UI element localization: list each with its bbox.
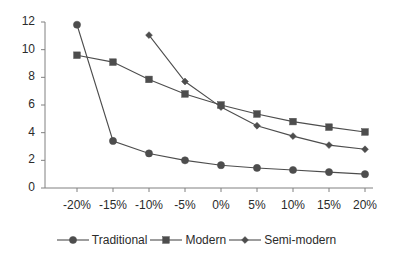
data-point-marker-circle (325, 168, 332, 175)
y-axis-tick-label: 2 (13, 152, 35, 166)
legend-label: Modern (183, 233, 228, 247)
legend-label: Traditional (90, 233, 150, 247)
series-semi-modern (146, 32, 369, 153)
legend-item-semi-modern[interactable]: Semi-modern (228, 233, 338, 247)
data-point-marker-square (326, 124, 333, 131)
x-axis-tick-label: -5% (165, 198, 205, 212)
data-point-marker-square (74, 52, 81, 59)
data-point-marker-diamond (326, 142, 333, 149)
data-point-marker-diamond (290, 133, 297, 140)
plot-area (0, 0, 394, 265)
data-point-marker-circle (289, 166, 296, 173)
series-line (77, 25, 365, 174)
chart-legend: TraditionalModernSemi-modern (0, 233, 394, 247)
data-point-marker-square (182, 91, 189, 98)
data-point-marker-circle (69, 236, 76, 243)
data-point-marker-circle (181, 157, 188, 164)
data-point-marker-square (110, 59, 117, 66)
x-axis-tick-label: 0% (201, 198, 241, 212)
data-point-marker-diamond (362, 146, 369, 153)
legend-item-modern[interactable]: Modern (149, 233, 228, 247)
data-point-marker-circle (73, 21, 80, 28)
y-axis-tick-label: 6 (13, 97, 35, 111)
data-point-marker-diamond (254, 122, 261, 129)
x-axis-tick-label: -20% (57, 198, 97, 212)
series-line (77, 55, 365, 132)
x-axis-tick-label: 15% (309, 198, 349, 212)
data-point-marker-circle (361, 171, 368, 178)
x-axis-tick-label: -10% (129, 198, 169, 212)
line-chart: 024681012 -20%-15%-10%-5%0%5%10%15%20% T… (0, 0, 394, 265)
x-axis-tick-label: 10% (273, 198, 313, 212)
legend-marker-diamond (228, 234, 262, 246)
data-point-marker-square (146, 76, 153, 83)
x-axis-tick-label: 5% (237, 198, 277, 212)
data-point-marker-square (290, 118, 297, 125)
y-axis-tick-label: 12 (13, 14, 35, 28)
data-point-marker-square (163, 237, 170, 244)
legend-marker-square (149, 234, 183, 246)
data-point-marker-circle (109, 137, 116, 144)
data-point-marker-square (362, 129, 369, 136)
series-traditional (73, 21, 368, 178)
data-point-marker-diamond (242, 237, 249, 244)
data-point-marker-circle (145, 150, 152, 157)
y-axis-tick-label: 8 (13, 69, 35, 83)
x-axis-tick-label: -15% (93, 198, 133, 212)
y-axis-tick-label: 10 (13, 42, 35, 56)
series-modern (74, 52, 369, 135)
legend-item-traditional[interactable]: Traditional (56, 233, 150, 247)
legend-marker-circle (56, 234, 90, 246)
data-point-marker-circle (253, 164, 260, 171)
data-point-marker-circle (217, 162, 224, 169)
x-axis-tick-label: 20% (345, 198, 385, 212)
data-point-marker-square (254, 111, 261, 118)
y-axis-tick-label: 4 (13, 125, 35, 139)
y-axis-tick-label: 0 (13, 180, 35, 194)
legend-label: Semi-modern (262, 233, 338, 247)
